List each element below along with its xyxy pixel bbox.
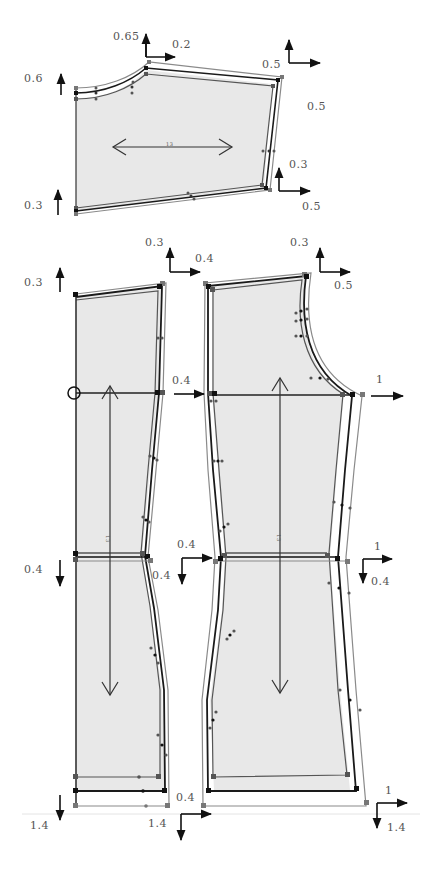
label-front-shoulder-right: 0.5 (334, 279, 353, 292)
label-back-waist-right-down: 0.4 (152, 569, 171, 582)
sleeve-grainline-mark: 13 (166, 141, 173, 147)
label-front-armhole-right: 1 (376, 373, 384, 386)
label-front-waist-down: 0.4 (371, 575, 390, 588)
label-back-shoulder-up: 0.3 (145, 236, 164, 249)
label-sleeve-cap-up: 0.65 (113, 30, 140, 43)
label-back-armhole-right: 0.4 (172, 374, 191, 387)
label-back-waist-left-down: 0.4 (24, 563, 43, 576)
label-front-waist-right: 1 (374, 540, 382, 553)
front-bodice-piece (201, 272, 369, 808)
label-front-shoulder-up: 0.3 (290, 236, 309, 249)
label-back-hem-left-down: 1.4 (30, 819, 49, 832)
arrow-sleeve-cap (146, 36, 175, 57)
back-grainline-mark: 13 (105, 535, 111, 542)
back-bodice-piece (68, 281, 170, 808)
label-back-hem-right-right: 0.4 (176, 791, 195, 804)
pattern-grading-diagram (0, 0, 429, 870)
label-front-hem-right: 1 (385, 784, 393, 797)
label-sleeve-right-bottom-up: 0.3 (289, 158, 308, 171)
label-sleeve-right-top-up: 0.5 (262, 58, 281, 71)
sleeve-fill (76, 70, 272, 211)
back-bodice-fill (76, 286, 165, 790)
label-sleeve-left-top-up: 0.6 (24, 72, 43, 85)
label-sleeve-left-bottom-up: 0.3 (24, 199, 43, 212)
label-back-top-left-up: 0.3 (24, 276, 43, 289)
label-back-hem-right-down: 1.4 (148, 817, 167, 830)
label-back-shoulder-right: 0.4 (195, 252, 214, 265)
front-grainline-mark: 13 (276, 534, 282, 541)
label-sleeve-right-top-right: 0.5 (307, 100, 326, 113)
label-sleeve-cap-right: 0.2 (172, 38, 191, 51)
sleeve-piece (74, 60, 284, 216)
label-front-hem-down: 1.4 (387, 821, 406, 834)
label-sleeve-right-bottom-right: 0.5 (302, 200, 321, 213)
label-back-waist-right-right: 0.4 (177, 538, 196, 551)
